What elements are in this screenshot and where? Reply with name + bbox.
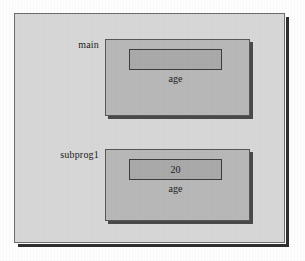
scope-label-main: main — [25, 39, 99, 50]
scope-label-subprog1: subprog1 — [21, 149, 99, 160]
scope-block-main[interactable]: age — [105, 39, 250, 116]
variable-value-subprog1-age: 20 — [171, 165, 181, 175]
scope-block-subprog1[interactable]: 20 age — [105, 149, 250, 221]
frame-shadow-bottom — [18, 244, 289, 247]
scope-diagram-figure: age main 20 age subprog1 — [0, 0, 305, 261]
diagram-outer-frame: age main 20 age subprog1 — [14, 13, 285, 243]
variable-name-subprog1-age: age — [129, 183, 222, 194]
variable-cell-main-age[interactable] — [129, 49, 222, 70]
variable-cell-subprog1-age[interactable]: 20 — [129, 159, 222, 180]
variable-name-main-age: age — [129, 73, 222, 84]
frame-shadow-right — [286, 17, 289, 246]
